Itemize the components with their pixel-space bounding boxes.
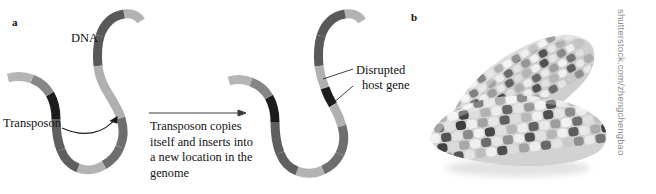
segment-r-inserted-transposon [325, 88, 333, 105]
variegated-corn-photo [418, 16, 618, 182]
segment-light-tip-top [124, 14, 141, 21]
corn-cob-front [418, 16, 618, 182]
segment-r-dark-lower-left [280, 153, 297, 171]
segment-r-mid-gray-left [251, 82, 269, 97]
leader-line-upper [323, 69, 353, 79]
segment-light-tip-left [8, 77, 32, 79]
segment-r-transposon-black [269, 97, 275, 122]
figure-root: a [0, 0, 656, 194]
segment-mid-gray-left [32, 79, 50, 94]
segment-r-dark-upper-2 [318, 36, 321, 66]
segment-r-light-host-gene [319, 66, 325, 88]
segment-r-light-bottom-curve [297, 170, 323, 173]
segment-light-bottom-curve [78, 165, 104, 170]
segment-light-upper-mid-2 [108, 93, 121, 118]
disrupted-host-gene-label-line1: Disrupted [356, 63, 405, 77]
segment-light-upper-mid [98, 66, 108, 93]
segment-r-light-tip-left [229, 80, 251, 82]
leader-line-lower [332, 86, 353, 104]
image-credit: shutterstock.com/zhengchengbao [616, 9, 627, 155]
segment-dark-mid-2 [104, 147, 120, 165]
segment-r-dark-mid-2 [323, 154, 340, 170]
segment-r-light-tip-top [345, 14, 362, 21]
disrupted-gene-leader-lines [323, 69, 353, 104]
transposon-label: Transposon [3, 116, 61, 131]
dna-label: DNA [71, 31, 98, 46]
panel-a-letter: a [12, 17, 18, 28]
segment-r-dark-mid [340, 126, 344, 154]
segment-r-light-host-gene-lower [333, 105, 342, 126]
panel-b-letter: b [411, 12, 417, 23]
segment-dark-upper [100, 14, 124, 36]
process-arrow [149, 110, 246, 116]
process-caption: Transposon copies itself and inserts int… [150, 119, 258, 181]
transposon-copy-arrow [62, 117, 118, 133]
segment-dark-mid [120, 118, 123, 147]
segment-dark-lower-left [61, 150, 78, 168]
segment-r-dark-upper [321, 14, 345, 36]
segment-r-dark-lower-left-2 [275, 122, 280, 153]
